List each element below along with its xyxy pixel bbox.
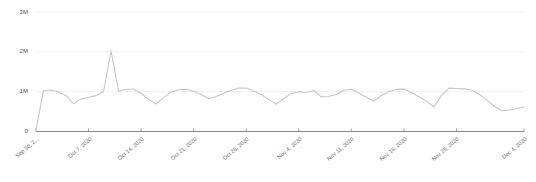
y-axis-tick-label: 1M <box>2 88 28 95</box>
data-point-marker <box>110 50 112 52</box>
y-axis-tick-label: 0 <box>2 128 28 135</box>
gridlines <box>36 12 524 92</box>
annotation-markers <box>110 50 112 52</box>
y-axis-tick-label: 3M <box>2 9 28 16</box>
chart-plot-area <box>0 0 536 182</box>
y-axis-tick-label: 2M <box>2 48 28 55</box>
line-chart: 01M2M3M Sep 30, 2...Oct 7, 2020Oct 14, 2… <box>0 0 536 182</box>
series-line-views <box>36 51 524 130</box>
